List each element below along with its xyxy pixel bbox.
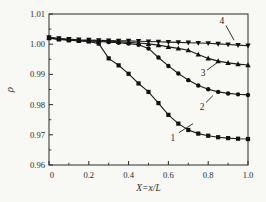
y-axis-tick-label: 1.01 [30, 9, 45, 19]
marker-square [107, 56, 111, 60]
marker-square [136, 81, 140, 85]
marker-circle [186, 78, 190, 82]
marker-square [206, 134, 210, 138]
x-axis-tick-label: 0.2 [83, 170, 94, 180]
marker-circle [176, 71, 180, 75]
marker-square [186, 128, 190, 132]
marker-square [146, 90, 150, 94]
y-axis-tick-label: 1.00 [30, 39, 45, 49]
curve-label-4: 4 [220, 16, 225, 26]
marker-circle [216, 90, 220, 94]
series-1-line [49, 38, 248, 139]
x-axis-tick-label: 0.6 [163, 170, 174, 180]
x-axis-tick-label: 0.4 [123, 170, 134, 180]
marker-square [176, 122, 180, 126]
marker-square [216, 135, 220, 139]
y-axis-tick-label: 0.96 [30, 160, 46, 170]
marker-circle [156, 55, 160, 59]
line-chart-figure: 00.20.40.60.81.00.960.970.980.991.001.01… [0, 0, 266, 202]
marker-circle [196, 83, 200, 87]
x-axis-tick-label: 1.0 [243, 170, 254, 180]
marker-circle [226, 91, 230, 95]
y-axis-tick-label: 0.99 [30, 69, 45, 79]
marker-square [117, 63, 121, 67]
marker-square [166, 113, 170, 117]
marker-circle [246, 93, 250, 97]
marker-square [236, 137, 240, 141]
marker-square [226, 136, 230, 140]
marker-square [127, 72, 131, 76]
curve-label-3: 3 [201, 68, 206, 78]
marker-circle [206, 87, 210, 91]
x-axis-tick-label: 0.8 [203, 170, 214, 180]
curve-label-1: 1 [171, 133, 176, 143]
curve-4-leader-line [226, 25, 234, 40]
marker-circle [236, 92, 240, 96]
curve-2-leader-line [206, 96, 213, 103]
x-axis-tick-label: 0 [50, 170, 54, 180]
marker-square [246, 137, 250, 141]
chart-canvas: 00.20.40.60.81.00.960.970.980.991.001.01… [0, 0, 266, 202]
marker-square [196, 131, 200, 135]
curve-label-2: 2 [200, 102, 205, 112]
marker-circle [146, 46, 150, 50]
y-axis-tick-label: 0.97 [30, 130, 46, 140]
y-axis-label: ρ [3, 87, 15, 93]
axes-frame [49, 14, 248, 165]
marker-circle [166, 64, 170, 68]
curve-3-leader-line [207, 62, 218, 70]
x-axis-label: X=x/L [135, 183, 160, 193]
marker-square [156, 101, 160, 105]
y-axis-tick-label: 0.98 [30, 100, 45, 110]
